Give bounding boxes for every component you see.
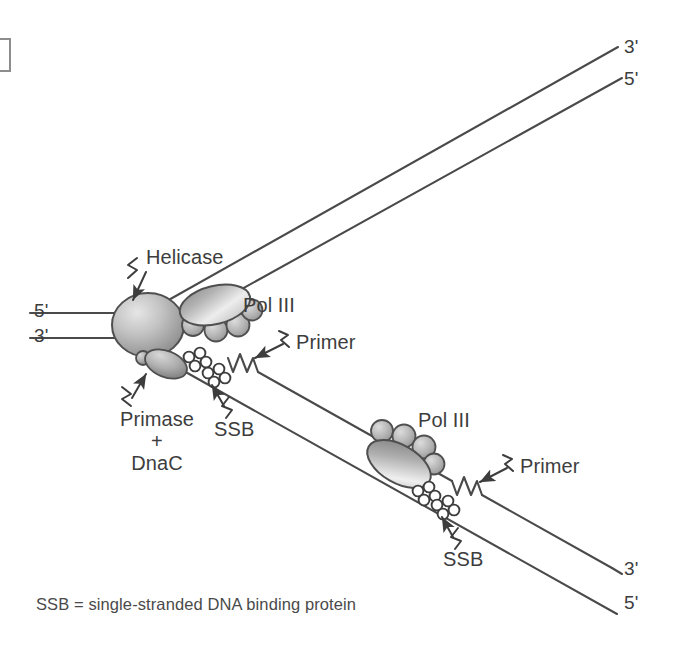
label-helicase: Helicase [146, 246, 224, 270]
primer-lower-leader-line [480, 455, 513, 482]
dna-replication-figure: 5' 3' 3' 5' 3' 5' Helicase Pol III Pol I… [0, 0, 692, 668]
label-pol-iii-lagging: Pol III [418, 409, 470, 433]
label-lagging-3prime: 3' [624, 558, 638, 580]
label-pol-iii-leading: Pol III [243, 294, 295, 318]
label-ssb-upper: SSB [214, 418, 254, 442]
helicase-protein [112, 293, 184, 357]
footnote-ssb-definition: SSB = single-stranded DNA binding protei… [36, 595, 356, 614]
label-dnac: DnaC [108, 452, 206, 476]
label-primer-upper: Primer [296, 331, 356, 355]
ssb-cluster-upper [184, 348, 231, 388]
lagging-strand-template [150, 352, 617, 614]
label-lagging-5prime: 5' [624, 592, 638, 614]
label-parental-3prime: 3' [34, 325, 48, 347]
label-primase: Primase [108, 408, 206, 432]
label-primase-plus: + [108, 430, 206, 454]
label-leading-3prime: 3' [624, 36, 638, 58]
label-ssb-lower: SSB [443, 548, 483, 572]
ssb-upper-leader-line [212, 385, 232, 418]
ssb-cluster-lower [413, 482, 460, 520]
primase-leader-line [122, 374, 146, 406]
label-parental-5prime: 5' [34, 300, 48, 322]
label-leading-5prime: 5' [624, 68, 638, 90]
primer-upper-leader-line [255, 331, 289, 358]
label-primer-lower: Primer [520, 455, 580, 479]
